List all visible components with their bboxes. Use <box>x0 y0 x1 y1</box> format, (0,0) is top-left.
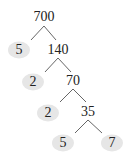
node-2: 2 <box>45 106 52 120</box>
node-70: 70 <box>66 74 80 88</box>
node-5: 5 <box>60 136 67 150</box>
node-7: 7 <box>109 136 116 150</box>
node-35: 35 <box>81 105 95 119</box>
node-2: 2 <box>30 75 37 89</box>
node-5: 5 <box>16 43 23 57</box>
node-140: 140 <box>48 43 69 57</box>
node-700: 700 <box>34 10 55 24</box>
